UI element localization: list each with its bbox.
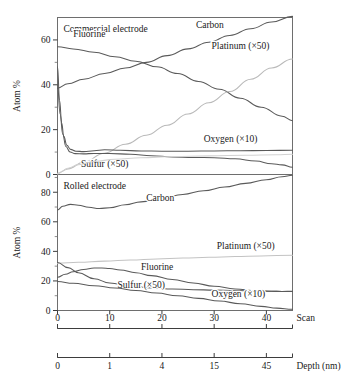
curve-label-top-panel-fluorine: Fluorine bbox=[73, 29, 105, 39]
y-ticklabel-top-panel-20: 20 bbox=[41, 125, 51, 135]
y-ticklabel-bottom-panel-0: 0 bbox=[46, 306, 51, 316]
depth-ticklabel-1: 1 bbox=[107, 361, 112, 371]
y-ticklabel-bottom-panel-80: 80 bbox=[41, 188, 51, 198]
panel-title-bottom-panel: Rolled electrode bbox=[64, 181, 127, 191]
curve-label-bottom-panel-fluorine: Fluorine bbox=[141, 262, 173, 272]
y-ticklabel-top-panel-40: 40 bbox=[41, 80, 51, 90]
depth-axis-title: Depth (nm) bbox=[297, 361, 341, 372]
curve-label-top-panel-oxygen-x10: Oxygen (×10) bbox=[204, 134, 258, 145]
y-ticklabel-bottom-panel-20: 20 bbox=[41, 276, 51, 286]
spectra-depth-profile-chart: 0204060Atom %Commercial electrodeCarbonF… bbox=[0, 0, 342, 385]
curve-bottom-panel-platinum-x50 bbox=[58, 255, 293, 263]
curve-label-top-panel-platinum-x50: Platinum (×50) bbox=[212, 41, 270, 52]
curve-bottom-panel-sulfur-x50 bbox=[58, 262, 293, 291]
y-axis-title-top-panel: Atom % bbox=[12, 80, 22, 112]
y-ticklabel-top-panel-60: 60 bbox=[41, 35, 51, 45]
curve-bottom-panel-fluorine bbox=[58, 268, 293, 292]
y-ticklabel-top-panel-0: 0 bbox=[46, 170, 51, 180]
curve-top-panel-fluorine bbox=[58, 47, 293, 121]
curve-label-bottom-panel-oxygen-x10: Oxygen (×10) bbox=[212, 289, 266, 300]
depth-ticklabel-45: 45 bbox=[262, 361, 272, 371]
curve-label-bottom-panel-platinum-x50: Platinum (×50) bbox=[217, 241, 275, 252]
depth-ticklabel-4: 4 bbox=[160, 361, 165, 371]
depth-ticklabel-0: 0 bbox=[55, 361, 60, 371]
y-axis-title-bottom-panel: Atom % bbox=[12, 226, 22, 258]
depth-ticklabel-15: 15 bbox=[209, 361, 219, 371]
scan-axis-title: Scan bbox=[297, 313, 316, 323]
figure-root: 0204060Atom %Commercial electrodeCarbonF… bbox=[0, 0, 342, 385]
y-ticklabel-bottom-panel-60: 60 bbox=[41, 217, 51, 227]
curve-label-top-panel-carbon: Carbon bbox=[196, 20, 224, 30]
curve-label-bottom-panel-carbon: Carbon bbox=[146, 193, 174, 203]
y-ticklabel-bottom-panel-40: 40 bbox=[41, 247, 51, 257]
